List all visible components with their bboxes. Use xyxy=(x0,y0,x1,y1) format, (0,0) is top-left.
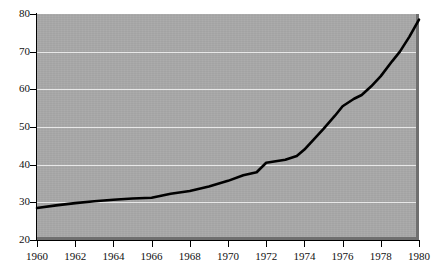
x-tick-1978 xyxy=(381,241,382,247)
y-tick-70 xyxy=(30,52,37,53)
series-1-line xyxy=(37,20,419,208)
x-tick-1968 xyxy=(190,241,191,247)
x-tick-1976 xyxy=(343,241,344,247)
y-tick-label-70: 70 xyxy=(4,46,30,57)
y-tick-20 xyxy=(30,240,37,241)
y-tick-30 xyxy=(30,202,37,203)
x-tick-1974 xyxy=(304,241,305,247)
y-tick-label-40: 40 xyxy=(4,159,30,170)
x-tick-label-1980: 1980 xyxy=(396,251,438,262)
y-tick-label-50: 50 xyxy=(4,121,30,132)
y-tick-50 xyxy=(30,127,37,128)
x-tick-1980 xyxy=(419,241,420,247)
y-tick-60 xyxy=(30,89,37,90)
y-tick-80 xyxy=(30,14,37,15)
y-tick-label-20: 20 xyxy=(4,234,30,245)
y-tick-label-80: 80 xyxy=(4,8,30,19)
series-line-chart xyxy=(37,14,419,240)
x-tick-1962 xyxy=(75,241,76,247)
x-tick-1972 xyxy=(266,241,267,247)
x-tick-1970 xyxy=(228,241,229,247)
y-tick-label-30: 30 xyxy=(4,196,30,207)
x-tick-1960 xyxy=(37,241,38,247)
chart-figure: 20304050607080 1960196219641966196819701… xyxy=(0,0,438,274)
x-tick-1964 xyxy=(113,241,114,247)
x-tick-1966 xyxy=(152,241,153,247)
y-tick-40 xyxy=(30,165,37,166)
y-tick-label-60: 60 xyxy=(4,83,30,94)
